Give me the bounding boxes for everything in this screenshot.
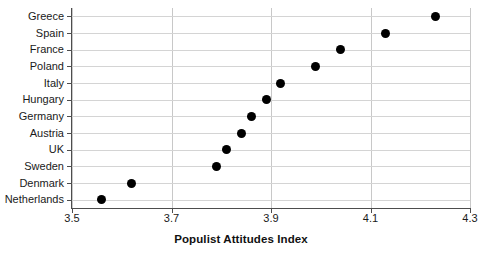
y-tick-mark [67, 66, 72, 67]
y-category-label-hungary: Hungary [0, 94, 64, 105]
y-category-label-sweden: Sweden [0, 161, 64, 172]
y-category-label-denmark: Denmark [0, 178, 64, 189]
y-tick-mark [67, 16, 72, 17]
y-tick-mark [67, 83, 72, 84]
x-gridline [72, 8, 73, 208]
y-gridline [72, 16, 470, 17]
x-axis-title: Populist Attitudes Index [0, 233, 482, 245]
data-point-hungary [262, 95, 271, 104]
y-gridline [72, 150, 470, 151]
y-tick-mark [67, 133, 72, 134]
x-gridline [470, 8, 471, 208]
x-tick-mark [470, 209, 471, 213]
data-point-sweden [212, 162, 221, 171]
y-category-label-greece: Greece [0, 11, 64, 22]
y-category-label-spain: Spain [0, 28, 64, 39]
x-tick-label: 3.9 [263, 212, 278, 224]
x-tick-label: 4.1 [363, 212, 378, 224]
data-point-netherlands [97, 195, 106, 204]
y-tick-mark [67, 33, 72, 34]
x-tick-mark [72, 209, 73, 213]
y-category-label-uk: UK [0, 144, 64, 155]
x-tick-mark [172, 209, 173, 213]
y-category-label-netherlands: Netherlands [0, 194, 64, 205]
y-gridline [72, 50, 470, 51]
x-tick-label: 4.3 [462, 212, 477, 224]
x-tick-label: 3.7 [164, 212, 179, 224]
y-gridline [72, 66, 470, 67]
data-point-poland [311, 62, 320, 71]
y-gridline [72, 133, 470, 134]
data-point-denmark [127, 179, 136, 188]
y-category-label-poland: Poland [0, 61, 64, 72]
x-tick-mark [271, 209, 272, 213]
y-tick-mark [67, 200, 72, 201]
y-gridline [72, 100, 470, 101]
y-category-label-austria: Austria [0, 128, 64, 139]
y-tick-mark [67, 116, 72, 117]
y-tick-mark [67, 166, 72, 167]
plot-area [72, 8, 470, 208]
data-point-italy [276, 79, 285, 88]
data-point-austria [237, 129, 246, 138]
y-gridline [72, 83, 470, 84]
x-gridline [271, 8, 272, 208]
data-point-france [336, 45, 345, 54]
y-gridline [72, 33, 470, 34]
y-tick-mark [67, 150, 72, 151]
y-gridline [72, 166, 470, 167]
y-category-label-italy: Italy [0, 78, 64, 89]
data-point-spain [381, 29, 390, 38]
data-point-greece [431, 12, 440, 21]
data-point-germany [247, 112, 256, 121]
y-tick-mark [67, 50, 72, 51]
x-gridline [172, 8, 173, 208]
data-point-uk [222, 145, 231, 154]
x-tick-label: 3.5 [64, 212, 79, 224]
y-category-label-germany: Germany [0, 111, 64, 122]
populist-attitudes-index-chart: GreeceSpainFrancePolandItalyHungaryGerma… [0, 0, 482, 256]
y-tick-mark [67, 100, 72, 101]
x-tick-mark [371, 209, 372, 213]
y-gridline [72, 200, 470, 201]
x-gridline [371, 8, 372, 208]
y-category-label-france: France [0, 44, 64, 55]
y-gridline [72, 116, 470, 117]
y-tick-mark [67, 183, 72, 184]
